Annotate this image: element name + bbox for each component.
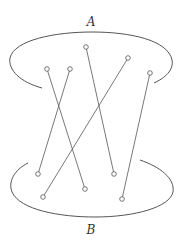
edge-a5-b5: [122, 73, 150, 199]
bipartite-diagram: AB: [0, 0, 186, 241]
set-a-label: A: [86, 15, 96, 29]
edge-a1-b3: [47, 69, 85, 189]
edge-a2-b1: [38, 69, 70, 174]
node-a5: [148, 71, 153, 76]
node-b2: [41, 195, 46, 200]
matching-edges: [38, 47, 150, 199]
edge-a3-b4: [86, 47, 114, 174]
node-a1: [45, 67, 50, 72]
set-b-arc: [11, 160, 173, 217]
node-b3: [83, 187, 88, 192]
set-b-label: B: [86, 223, 96, 237]
set-arcs: [10, 32, 173, 217]
node-a3: [84, 45, 89, 50]
node-a4: [126, 56, 131, 61]
set-a-arc: [10, 32, 172, 88]
node-a2: [68, 67, 73, 72]
node-b4: [112, 172, 117, 177]
node-b1: [36, 172, 41, 177]
node-b5: [120, 197, 125, 202]
